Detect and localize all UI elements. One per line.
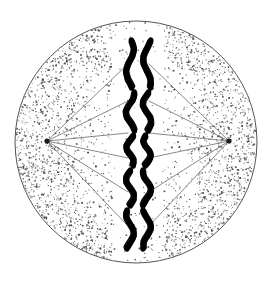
right-pole	[226, 138, 231, 143]
mitosis-figure	[0, 0, 275, 283]
cell-diagram	[0, 0, 275, 283]
left-pole	[44, 138, 49, 143]
